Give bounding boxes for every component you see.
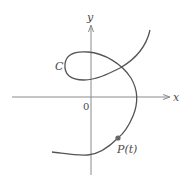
point-label: P(t) [116, 143, 137, 156]
origin-label: 0 [83, 101, 89, 112]
curve-label: C [55, 60, 64, 73]
curve-c [52, 30, 150, 155]
point-p-marker [115, 135, 120, 140]
x-axis-label: x [173, 91, 180, 104]
parametric-curve-diagram: y x 0 C P(t) [0, 0, 190, 187]
y-axis-label: y [86, 11, 94, 24]
y-axis [89, 25, 94, 175]
